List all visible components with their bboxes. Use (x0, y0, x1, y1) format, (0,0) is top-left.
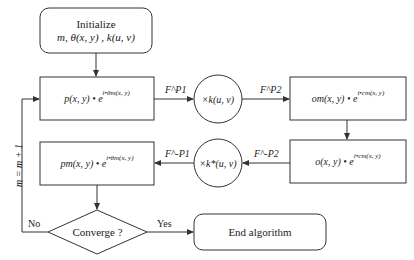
probe-m-exponent: i•θm(x, y) (106, 152, 133, 165)
multiply-k-node: ×k(u, v) (194, 75, 242, 123)
converge-decision: Converge ? (48, 210, 147, 254)
initialize-params: m, θ(x, y) , k(u, v) (57, 31, 135, 44)
object-m-exponent: i•cm(x, y) (357, 87, 384, 100)
edge-label-fp2: F^P2 (260, 84, 281, 95)
probe-m-main: pm(x, y) • e (61, 157, 107, 170)
multiply-k-label: ×k(u, v) (202, 93, 234, 106)
edge-label-yes: Yes (157, 218, 172, 229)
multiply-kstar-label: ×k*(u, v) (199, 157, 236, 170)
object-node: o(x, y) • ei•cm(x, y) (290, 140, 406, 183)
object-exponent: i•cm(x, y) (354, 150, 381, 163)
edge-label-fmp2: F^-P2 (254, 148, 279, 159)
initialize-title: Initialize (76, 18, 115, 31)
object-m-node: om(x, y) • ei•cm(x, y) (290, 77, 406, 120)
probe-node: p(x, y) • ei•θm(x, y) (40, 77, 154, 120)
edge-label-fp1: F^P1 (165, 84, 186, 95)
initialize-node: Initialize m, θ(x, y) , k(u, v) (40, 8, 152, 53)
object-main: o(x, y) • e (315, 155, 353, 168)
converge-label: Converge ? (72, 226, 122, 239)
probe-exponent: i•θm(x, y) (103, 87, 130, 100)
edge-label-fmp1: F^-P1 (165, 148, 190, 159)
probe-main: p(x, y) • e (64, 92, 102, 105)
probe-m-node: pm(x, y) • ei•θm(x, y) (40, 142, 154, 185)
end-node: End algorithm (194, 214, 326, 250)
end-label: End algorithm (228, 226, 291, 239)
edge-label-loop: m = m + 1 (13, 136, 24, 196)
object-m-main: om(x, y) • e (312, 92, 358, 105)
edge-label-no: No (28, 218, 40, 229)
multiply-kstar-node: ×k*(u, v) (194, 139, 242, 187)
